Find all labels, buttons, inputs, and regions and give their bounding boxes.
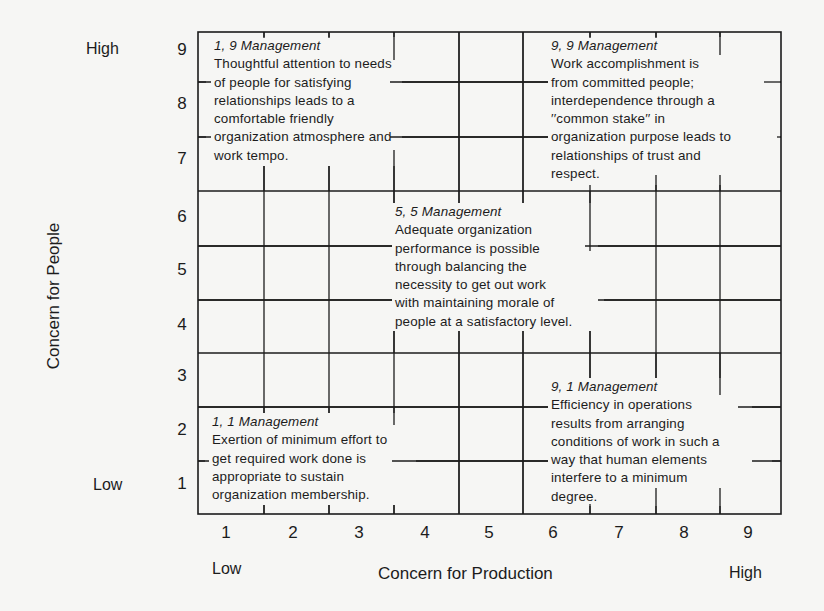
x-tick: 3 [349, 524, 369, 542]
x-tick: 7 [609, 524, 629, 542]
grid-stubs [0, 0, 824, 611]
x-tick: 6 [543, 524, 563, 542]
x-axis-low-label: Low [212, 560, 241, 578]
y-axis-label: Concern for People [44, 223, 64, 369]
y-tick: 5 [172, 261, 192, 279]
x-tick: 4 [415, 524, 435, 542]
x-tick: 9 [738, 524, 758, 542]
y-tick: 2 [172, 421, 192, 439]
y-axis-high-label: High [86, 40, 119, 58]
y-tick: 6 [172, 208, 192, 226]
y-tick: 9 [172, 41, 192, 59]
y-tick: 1 [172, 475, 192, 493]
x-tick: 8 [674, 524, 694, 542]
x-tick: 1 [216, 524, 236, 542]
y-tick: 8 [172, 95, 192, 113]
x-axis-high-label: High [729, 564, 762, 582]
y-tick: 4 [172, 316, 192, 334]
x-axis-label: Concern for Production [378, 564, 553, 584]
y-tick: 3 [172, 367, 192, 385]
y-tick: 7 [172, 150, 192, 168]
y-axis-low-label: Low [93, 476, 122, 494]
x-tick: 5 [479, 524, 499, 542]
x-tick: 2 [283, 524, 303, 542]
